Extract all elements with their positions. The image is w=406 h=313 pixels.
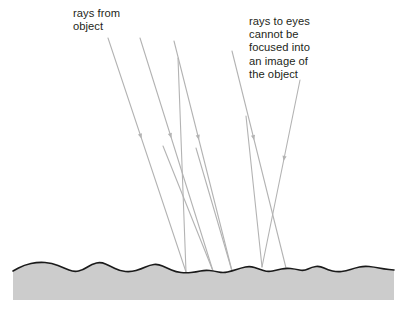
optics-diagram <box>0 0 406 313</box>
annotation-rays-from-object: rays from object <box>73 7 120 33</box>
annotation-rays-to-eyes: rays to eyes cannot be focused into an i… <box>249 15 310 81</box>
